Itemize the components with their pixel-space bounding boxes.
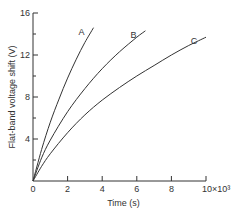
ticks: 4812160246810×10³ bbox=[20, 8, 230, 194]
x-tick-label: 4 bbox=[100, 184, 105, 194]
curve-label-c: C bbox=[191, 36, 198, 46]
x-axis-label: Time (s) bbox=[107, 198, 140, 208]
x-tick-label: 8 bbox=[169, 184, 174, 194]
axes bbox=[33, 13, 206, 181]
curve-label-b: B bbox=[130, 30, 136, 40]
x-tick-label: 2 bbox=[65, 184, 70, 194]
y-tick-label: 8 bbox=[25, 92, 30, 102]
chart: 4812160246810×10³ ABC Time (s) Flat-band… bbox=[0, 0, 243, 215]
y-tick-label: 4 bbox=[25, 134, 30, 144]
y-axis-label: Flat-band voltage shift (V) bbox=[7, 45, 17, 148]
curve-label-a: A bbox=[79, 27, 85, 37]
y-tick-label: 16 bbox=[20, 8, 30, 18]
curve-c bbox=[33, 37, 206, 181]
x-tick-label: 6 bbox=[134, 184, 139, 194]
curve-b bbox=[33, 31, 145, 181]
x-tick-label: 10×10³ bbox=[202, 184, 230, 194]
curves: ABC bbox=[33, 27, 206, 181]
y-tick-label: 12 bbox=[20, 50, 30, 60]
x-tick-label: 0 bbox=[30, 184, 35, 194]
